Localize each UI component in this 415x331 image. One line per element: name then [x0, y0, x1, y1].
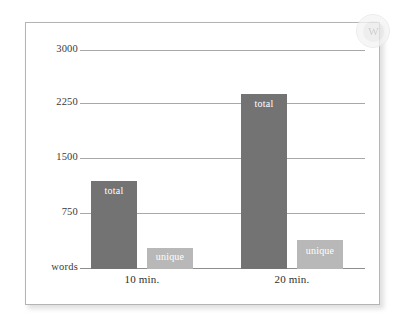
- bars-layer: total unique total unique: [25, 22, 380, 269]
- bar-unique-20min[interactable]: unique: [297, 240, 343, 269]
- bar-label-unique-10min: unique: [147, 251, 193, 262]
- xtick-label-20min: 20 min.: [241, 273, 343, 285]
- xtick-label-10min: 10 min.: [91, 273, 193, 285]
- plot-area: 3000 2250 1500 750 words total unique to…: [25, 22, 380, 305]
- bar-label-unique-20min: unique: [297, 245, 343, 256]
- figure-root: W 3000 2250 1500 750 words total unique …: [0, 0, 415, 331]
- bar-label-total-20min: total: [241, 98, 287, 109]
- bar-unique-10min[interactable]: unique: [147, 248, 193, 269]
- bar-total-20min[interactable]: total: [241, 94, 287, 269]
- bar-label-total-10min: total: [91, 185, 137, 196]
- bar-total-10min[interactable]: total: [91, 181, 137, 269]
